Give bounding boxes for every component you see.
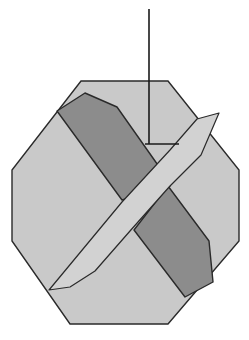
- diagram-figure: [0, 0, 249, 340]
- diagram-svg: [0, 0, 249, 340]
